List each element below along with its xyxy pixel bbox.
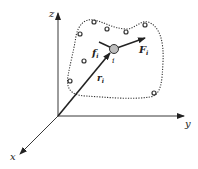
y-axis-label: y: [184, 118, 191, 129]
particle-i-label: i: [112, 56, 115, 65]
particle-dot: [68, 79, 72, 83]
particle-dot: [152, 91, 156, 95]
particle-i: [110, 45, 119, 54]
internal-force-label: fi: [91, 47, 99, 59]
external-force-label: Fi: [138, 44, 149, 56]
particle-dot: [105, 27, 109, 31]
particle-dot: [124, 30, 128, 34]
x-axis: [20, 116, 58, 154]
z-axis-label: z: [48, 8, 55, 19]
particle-dot: [143, 23, 147, 27]
axes: z y x: [10, 8, 191, 162]
particle-system-diagram: z y x fi Fi i ri: [0, 0, 198, 169]
particle-dot: [78, 32, 82, 36]
position-vector-label: ri: [97, 73, 105, 84]
particle-dot: [92, 20, 96, 24]
particle-dot: [82, 59, 86, 63]
x-axis-label: x: [10, 151, 16, 162]
